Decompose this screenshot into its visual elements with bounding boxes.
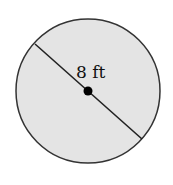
diameter-label: 8 ft xyxy=(76,62,106,82)
circle-diagram: 8 ft xyxy=(0,0,173,185)
center-point xyxy=(84,87,93,96)
